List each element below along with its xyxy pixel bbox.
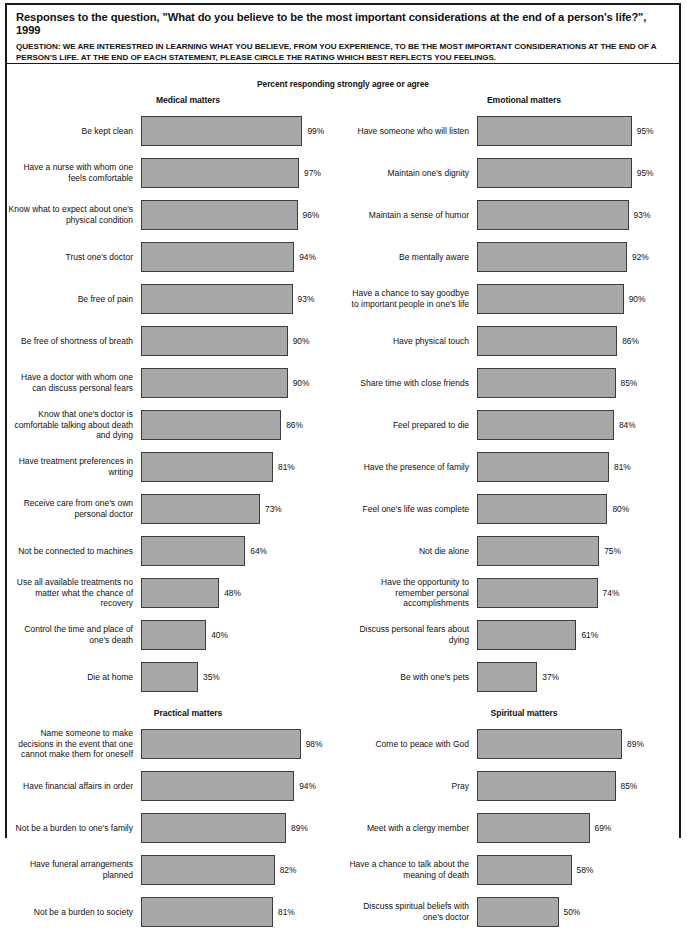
bar-track: 81% bbox=[141, 891, 343, 931]
bar-row: Be kept clean99% bbox=[7, 110, 343, 152]
bar-track: 48% bbox=[141, 572, 343, 614]
bar bbox=[477, 729, 622, 759]
panel-title: Practical matters bbox=[7, 708, 343, 718]
bar-label: Be free of shortness of breath bbox=[7, 336, 141, 347]
bar bbox=[477, 200, 629, 230]
bar-label: Have a chance to talk about the meaning … bbox=[343, 859, 477, 880]
bar-label: Know what to expect about one's physical… bbox=[7, 204, 141, 225]
bar-track: 81% bbox=[477, 446, 679, 488]
bar-value: 40% bbox=[211, 630, 228, 640]
bar-label: Not die alone bbox=[343, 546, 477, 557]
bar bbox=[141, 284, 293, 314]
bar-track: 97% bbox=[141, 152, 343, 194]
bar-track: 74% bbox=[477, 572, 679, 614]
bar-value: 86% bbox=[286, 420, 303, 430]
bar-label: Be kept clean bbox=[7, 126, 141, 137]
bar-track: 82% bbox=[141, 849, 343, 891]
bar-track: 64% bbox=[141, 530, 343, 572]
bar-track: 85% bbox=[477, 362, 679, 404]
bar-track: 50% bbox=[477, 891, 679, 931]
bar-row: Feel prepared to die84% bbox=[343, 404, 679, 446]
bar bbox=[477, 116, 632, 146]
bar-value: 58% bbox=[577, 865, 594, 875]
bar bbox=[141, 620, 206, 650]
bar bbox=[477, 158, 632, 188]
bar-row: Have financial affairs in order94% bbox=[7, 765, 343, 807]
bar-row: Pray85% bbox=[343, 765, 679, 807]
bar-label: Be mentally aware bbox=[343, 252, 477, 263]
bar-row: Be free of pain93% bbox=[7, 278, 343, 320]
bar-value: 92% bbox=[632, 252, 649, 262]
bar-track: 95% bbox=[477, 152, 679, 194]
bar-label: Feel one's life was complete bbox=[343, 504, 477, 515]
bar-value: 89% bbox=[627, 739, 644, 749]
bar bbox=[477, 326, 617, 356]
bar-track: 85% bbox=[477, 765, 679, 807]
bar-row: Have funeral arrangements planned82% bbox=[7, 849, 343, 891]
bar-track: 90% bbox=[141, 320, 343, 362]
bar bbox=[141, 158, 299, 188]
bar bbox=[141, 897, 273, 927]
panel-medical-matters: Medical mattersBe kept clean99%Have a nu… bbox=[7, 95, 343, 698]
bar-label: Have the opportunity to remember persona… bbox=[343, 577, 477, 609]
bar-track: 90% bbox=[477, 278, 679, 320]
bar bbox=[477, 813, 590, 843]
bar bbox=[141, 536, 245, 566]
bar-label: Receive care from one's own personal doc… bbox=[7, 498, 141, 519]
bar-label: Not be a burden to one's family bbox=[7, 823, 141, 834]
bar-label: Have financial affairs in order bbox=[7, 781, 141, 792]
panel-row-bottom: Practical mattersName someone to make de… bbox=[7, 708, 679, 931]
bar-row: Have a chance to talk about the meaning … bbox=[343, 849, 679, 891]
bar bbox=[141, 326, 288, 356]
bar-track: 80% bbox=[477, 488, 679, 530]
bar-value: 98% bbox=[306, 739, 323, 749]
bar-value: 61% bbox=[581, 630, 598, 640]
bar-value: 94% bbox=[299, 781, 316, 791]
bar-value: 35% bbox=[203, 672, 220, 682]
bar-value: 85% bbox=[621, 781, 638, 791]
bar bbox=[477, 855, 572, 885]
bar-label: Use all available treatments no matter w… bbox=[7, 577, 141, 609]
bar-row: Control the time and place of one's deat… bbox=[7, 614, 343, 656]
bar bbox=[477, 771, 616, 801]
bar bbox=[477, 494, 607, 524]
bar-value: 81% bbox=[278, 462, 295, 472]
bar-row: Have the presence of family81% bbox=[343, 446, 679, 488]
bar-value: 90% bbox=[293, 336, 310, 346]
bar-row: Name someone to make decisions in the ev… bbox=[7, 723, 343, 765]
bar-row: Die at home35% bbox=[7, 656, 343, 698]
panel-practical-matters: Practical mattersName someone to make de… bbox=[7, 708, 343, 931]
bar-track: 75% bbox=[477, 530, 679, 572]
bar bbox=[477, 662, 537, 692]
panel-spiritual-matters: Spiritual mattersCome to peace with God8… bbox=[343, 708, 679, 931]
bar-value: 48% bbox=[224, 588, 241, 598]
bar-row: Meet with a clergy member69% bbox=[343, 807, 679, 849]
bar-row: Have a nurse with whom one feels comfort… bbox=[7, 152, 343, 194]
bar-value: 37% bbox=[542, 672, 559, 682]
bar-row: Know that one's doctor is comfortable ta… bbox=[7, 404, 343, 446]
bar-row: Share time with close friends85% bbox=[343, 362, 679, 404]
bar-track: 69% bbox=[477, 807, 679, 849]
bar-track: 95% bbox=[477, 110, 679, 152]
bar-row: Receive care from one's own personal doc… bbox=[7, 488, 343, 530]
bar-value: 50% bbox=[564, 907, 581, 917]
bar-track: 96% bbox=[141, 194, 343, 236]
bar-row: Use all available treatments no matter w… bbox=[7, 572, 343, 614]
bar-row: Trust one's doctor94% bbox=[7, 236, 343, 278]
bar bbox=[141, 410, 281, 440]
page-title: Responses to the question, "What do you … bbox=[16, 11, 671, 37]
bar-label: Have funeral arrangements planned bbox=[7, 859, 141, 880]
bar bbox=[141, 578, 219, 608]
bar-value: 86% bbox=[622, 336, 639, 346]
bar-row: Not be connected to machines64% bbox=[7, 530, 343, 572]
bar bbox=[141, 771, 294, 801]
bar bbox=[477, 410, 614, 440]
bar-value: 93% bbox=[298, 294, 315, 304]
bar bbox=[141, 368, 288, 398]
bar-value: 90% bbox=[629, 294, 646, 304]
bar bbox=[477, 284, 624, 314]
bar-label: Name someone to make decisions in the ev… bbox=[7, 728, 141, 760]
bar-row: Have a doctor with whom one can discuss … bbox=[7, 362, 343, 404]
bar-label: Pray bbox=[343, 781, 477, 792]
